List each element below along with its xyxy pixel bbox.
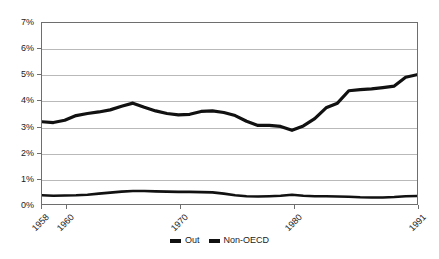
x-axis: 1958 1960 1970 1980 1991 (0, 0, 439, 259)
line-chart: 7% 6% 5% 4% 3% 2% 1% 0% (0, 0, 439, 259)
legend-entry-out[interactable]: Out (170, 236, 200, 245)
x-tick-mark-1958 (41, 205, 42, 209)
legend-entry-non-oecd[interactable]: Non-OECD (209, 236, 270, 245)
x-tick-label-1980: 1980 (263, 212, 304, 253)
x-tick-label-1970: 1970 (149, 212, 190, 253)
legend: Out Non-OECD (0, 236, 439, 245)
legend-swatch-icon-non-oecd (209, 239, 220, 243)
x-tick-mark-1980 (294, 205, 295, 209)
x-tick-label-1991: 1991 (387, 212, 428, 253)
legend-label-out: Out (185, 236, 200, 245)
legend-label-non-oecd: Non-OECD (224, 236, 270, 245)
x-tick-mark-1960 (66, 205, 67, 209)
x-tick-mark-1991 (418, 205, 419, 209)
x-tick-mark-1970 (180, 205, 181, 209)
legend-swatch-icon-out (170, 239, 181, 243)
